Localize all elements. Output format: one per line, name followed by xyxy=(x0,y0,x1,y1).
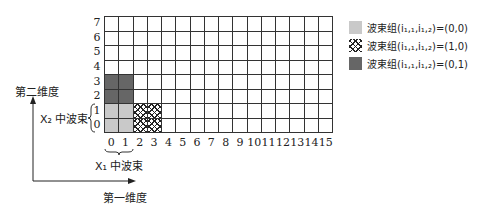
grid-cell xyxy=(176,32,190,47)
grid-cell xyxy=(319,61,333,76)
grid-cell xyxy=(276,104,290,119)
grid-cell xyxy=(219,75,233,90)
legend-item-group-1-0: 波束组(i₁,₁,i₁,₂)=(1,0) xyxy=(349,38,468,52)
grid-cell xyxy=(162,75,176,90)
grid-cell xyxy=(276,32,290,47)
grid-cell xyxy=(290,104,304,119)
grid-cell xyxy=(205,32,219,47)
grid-cell xyxy=(319,104,333,119)
grid-cell xyxy=(176,17,190,32)
grid-cell xyxy=(134,46,148,61)
grid-cell xyxy=(134,75,148,90)
grid-cell xyxy=(148,75,162,90)
grid-cell xyxy=(162,119,176,134)
grid-cell xyxy=(219,17,233,32)
x-tick: 14 xyxy=(304,136,318,149)
grid-cell xyxy=(191,17,205,32)
x-tick: 6 xyxy=(190,136,204,149)
grid-cell xyxy=(205,17,219,32)
grid-cell xyxy=(219,46,233,61)
grid-cell xyxy=(119,75,133,90)
x-tick: 7 xyxy=(204,136,218,149)
grid-cell xyxy=(305,46,319,61)
grid-cell xyxy=(162,32,176,47)
grid-cell xyxy=(176,75,190,90)
grid-cell xyxy=(148,119,162,134)
x-tick: 12 xyxy=(276,136,290,149)
grid-cell xyxy=(162,90,176,105)
grid-cell xyxy=(105,17,119,32)
grid-cell xyxy=(176,119,190,134)
grid-cell xyxy=(248,75,262,90)
grid-cell xyxy=(148,32,162,47)
grid-cell xyxy=(219,104,233,119)
grid-cell xyxy=(248,61,262,76)
grid-cell xyxy=(219,90,233,105)
grid-cell xyxy=(205,104,219,119)
grid-cell xyxy=(248,90,262,105)
grid-cell xyxy=(262,61,276,76)
grid-cell xyxy=(290,61,304,76)
grid-cell xyxy=(262,119,276,134)
grid-cell xyxy=(262,17,276,32)
x-tick: 5 xyxy=(176,136,190,149)
grid-cell xyxy=(276,75,290,90)
grid-cell xyxy=(319,90,333,105)
grid-cell xyxy=(290,90,304,105)
grid-cell xyxy=(119,17,133,32)
grid-cell xyxy=(262,75,276,90)
grid-cell xyxy=(276,119,290,134)
grid-cell xyxy=(176,90,190,105)
grid-cell xyxy=(219,32,233,47)
grid-cell xyxy=(205,75,219,90)
grid-cell xyxy=(305,119,319,134)
grid-cell xyxy=(134,61,148,76)
grid-cell xyxy=(262,104,276,119)
grid-cell xyxy=(162,46,176,61)
grid-cell xyxy=(276,17,290,32)
grid-cell xyxy=(319,17,333,32)
grid-cell xyxy=(248,46,262,61)
second-dimension-label: 第二维度 xyxy=(15,83,59,99)
grid-cell xyxy=(233,75,247,90)
grid-cell xyxy=(105,46,119,61)
grid-cell xyxy=(262,90,276,105)
grid-cell xyxy=(248,32,262,47)
grid-cell xyxy=(290,32,304,47)
y-tick: 5 xyxy=(92,45,102,60)
grid-cell xyxy=(191,75,205,90)
grid-cell xyxy=(176,104,190,119)
grid-cell xyxy=(191,104,205,119)
grid-cell xyxy=(305,75,319,90)
grid-cell xyxy=(191,46,205,61)
grid-cell xyxy=(148,17,162,32)
grid-cell xyxy=(305,32,319,47)
grid-cell xyxy=(162,104,176,119)
y-tick: 3 xyxy=(92,75,102,90)
grid-cell xyxy=(233,61,247,76)
x-tick: 8 xyxy=(219,136,233,149)
grid-cell xyxy=(248,17,262,32)
grid-cell xyxy=(119,61,133,76)
grid-cell xyxy=(162,61,176,76)
legend-label: 波束组(i₁,₁,i₁,₂)=(0,1) xyxy=(367,56,468,71)
grid-cell xyxy=(176,46,190,61)
first-dimension-label: 第一维度 xyxy=(103,189,147,205)
legend-swatch-dark xyxy=(349,57,362,70)
grid-cell xyxy=(191,61,205,76)
grid-cell xyxy=(219,119,233,134)
grid-cell xyxy=(134,32,148,47)
grid-cell xyxy=(205,119,219,134)
x-tick: 13 xyxy=(290,136,304,149)
x-tick: 15 xyxy=(319,136,333,149)
beam-grid xyxy=(104,16,333,133)
grid-cell xyxy=(248,104,262,119)
grid-cell xyxy=(205,90,219,105)
grid-cell xyxy=(276,46,290,61)
legend-label: 波束组(i₁,₁,i₁,₂)=(1,0) xyxy=(367,38,468,53)
grid-cell xyxy=(191,32,205,47)
grid-cell xyxy=(262,32,276,47)
grid-cell xyxy=(276,90,290,105)
grid-cell xyxy=(276,61,290,76)
grid-cell xyxy=(191,119,205,134)
